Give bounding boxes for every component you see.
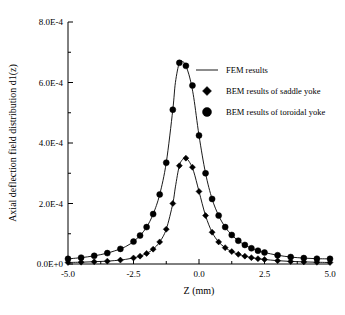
y-tick-label: 0.0E+0 [37,259,64,269]
data-point-circle [235,238,241,244]
data-point-circle [242,242,248,248]
legend-label: BEM results of saddle yoke [226,86,321,96]
data-point-circle [222,224,228,230]
data-point-circle [176,60,182,66]
y-tick-label: 6.0E-4 [39,78,64,88]
data-point-circle [157,191,163,197]
data-point-circle [117,246,123,252]
data-point-circle [183,63,189,69]
data-point-circle [144,224,150,230]
data-point-circle [104,250,110,256]
chart-svg: -5.0-2.50.02.55.00.0E+02.0E-44.0E-46.0E-… [0,0,345,315]
data-point-circle [314,256,320,262]
data-point-circle [170,107,176,113]
y-tick-label: 2.0E-4 [39,199,64,209]
data-point-circle [131,239,137,245]
x-tick-label: -5.0 [61,269,76,279]
data-point-circle [203,170,209,176]
data-point-circle [189,83,195,89]
x-tick-label: -2.5 [126,269,141,279]
data-point-circle [209,196,215,202]
x-axis-title: Z (mm) [184,285,215,297]
y-tick-label: 4.0E-4 [39,138,64,148]
data-point-circle [163,160,169,166]
legend-label: BEM results of toroidal yoke [226,107,325,117]
data-point-circle [150,211,156,217]
data-point-circle [262,250,268,256]
legend-marker-circle [203,108,212,117]
data-point-circle [196,132,202,138]
data-point-circle [301,255,307,261]
data-point-circle [275,252,281,258]
y-axis-title: Axial deflection field distribution d1(z… [7,64,19,222]
data-point-circle [288,254,294,260]
data-point-circle [91,253,97,259]
data-point-circle [78,255,84,261]
data-point-circle [137,233,143,239]
x-tick-label: 0.0 [193,269,205,279]
y-tick-label: 8.0E-4 [39,17,64,27]
data-point-circle [216,213,222,219]
data-point-circle [248,245,254,251]
x-tick-label: 2.5 [259,269,271,279]
data-point-circle [255,248,261,254]
data-point-circle [229,232,235,238]
x-tick-label: 5.0 [324,269,336,279]
legend-label: FEM results [226,65,268,75]
chart-container: -5.0-2.50.02.55.00.0E+02.0E-44.0E-46.0E-… [0,0,345,315]
